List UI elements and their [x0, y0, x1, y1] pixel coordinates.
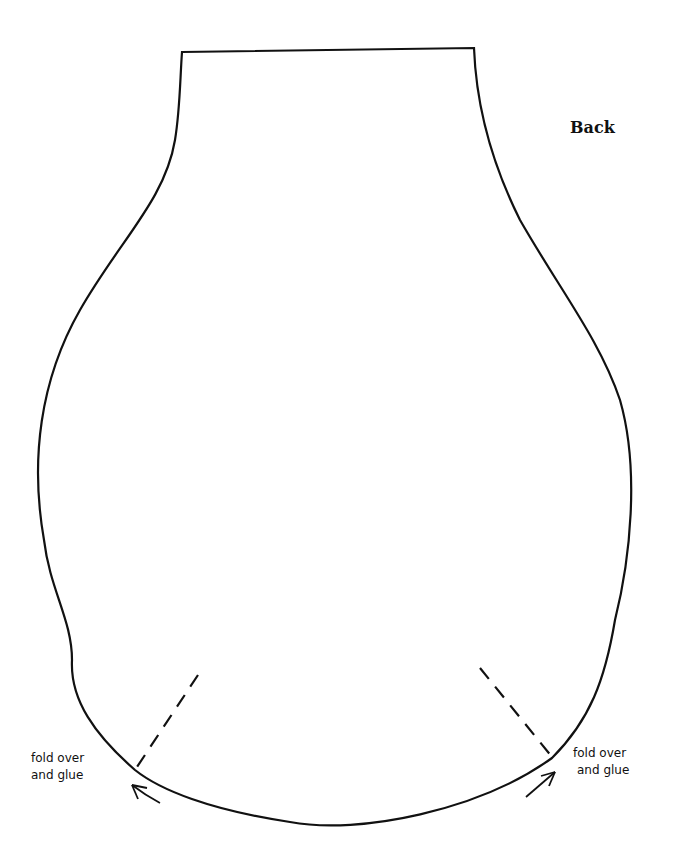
- back-piece-outline: [38, 48, 631, 825]
- fold-note-right-line2: and glue: [573, 762, 629, 779]
- fold-note-left: fold over and glue: [31, 750, 84, 784]
- arrow-right-icon: [526, 772, 555, 797]
- arrow-left-icon: [132, 785, 160, 803]
- fold-note-left-line1: fold over: [31, 750, 84, 767]
- fold-note-right: fold over and glue: [573, 745, 629, 779]
- fold-line-left: [135, 675, 198, 770]
- fold-line-right: [480, 668, 552, 757]
- fold-note-left-line2: and glue: [31, 767, 84, 784]
- fold-note-right-line1: fold over: [573, 745, 629, 762]
- piece-title: Back: [570, 118, 615, 137]
